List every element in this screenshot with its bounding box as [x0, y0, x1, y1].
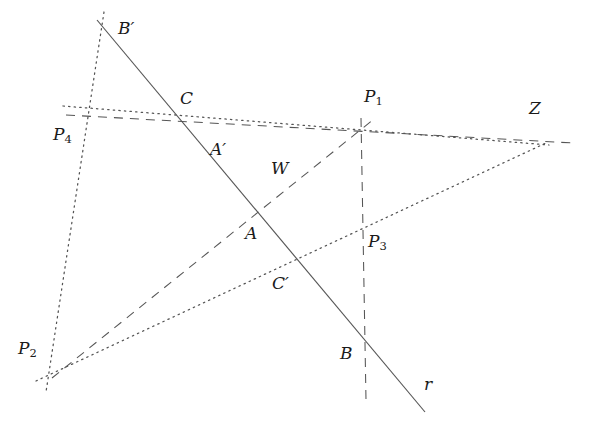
label-b-prime: B′ — [118, 20, 134, 37]
label-r: r — [424, 376, 432, 393]
label-p2: P2 — [18, 340, 37, 360]
label-a-prime: A′ — [210, 141, 226, 158]
label-p4-base: P — [53, 124, 64, 144]
label-a-prime-base: A — [210, 139, 222, 159]
label-c-prime-base: C — [272, 273, 285, 293]
line-r-solid — [97, 20, 425, 412]
label-c: C — [180, 90, 193, 107]
label-b-prime-base: B — [118, 18, 131, 38]
label-b: B — [340, 345, 353, 362]
label-p2-subscript: 2 — [29, 346, 36, 360]
label-a-base: A — [245, 223, 257, 243]
line-bprime-p4-p2-dotted — [46, 12, 104, 392]
label-w-base: W — [271, 158, 288, 178]
label-p2-base: P — [18, 338, 29, 358]
label-c-prime-prime-mark: ′ — [285, 273, 289, 293]
label-w: W — [271, 160, 288, 177]
label-c-base: C — [180, 88, 193, 108]
label-a-prime-prime-mark: ′ — [222, 139, 226, 159]
label-p1-subscript: 1 — [375, 94, 382, 108]
label-r-base: r — [424, 374, 432, 394]
label-z-base: Z — [529, 98, 541, 118]
figure-canvas — [0, 0, 594, 431]
label-a: A — [245, 225, 257, 242]
label-p3-base: P — [368, 231, 379, 251]
label-b-base: B — [340, 343, 353, 363]
line-p1-p3-b-vertical-dashed — [361, 118, 366, 400]
label-c-prime: C′ — [272, 275, 289, 292]
line-p4-c-p1-z-dashed — [66, 115, 573, 143]
label-p3: P3 — [368, 233, 387, 253]
label-p1: P1 — [364, 88, 383, 108]
label-b-prime-prime-mark: ′ — [131, 18, 135, 38]
label-p1-base: P — [364, 86, 375, 106]
label-z: Z — [529, 100, 541, 117]
lines-group — [36, 12, 573, 412]
line-p2-cprime-p3-z-dotted — [36, 143, 546, 381]
label-p4-subscript: 4 — [64, 132, 71, 146]
geometry-figure: Projective geometry construction: line r… — [0, 0, 594, 431]
label-p3-subscript: 3 — [379, 239, 386, 253]
line-p4-aprime-w-p3-z-dotted — [63, 106, 549, 145]
label-p4: P4 — [53, 126, 72, 146]
